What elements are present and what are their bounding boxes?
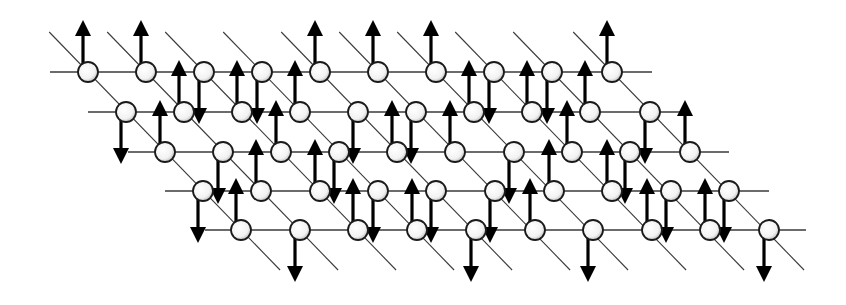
spin-up-arrow-icon [268,100,284,116]
lattice-canvas [0,0,846,305]
lattice-site [485,181,505,201]
lattice-site [271,142,291,162]
lattice-site [368,62,388,82]
lattice-site [445,142,465,162]
spin-up-arrow-icon [248,139,264,155]
spin-up-arrow-icon [133,20,149,36]
lattice-site [759,220,779,240]
lattice-site [194,62,214,82]
spin-up-arrow-icon [577,60,593,76]
lattice-site [213,142,233,162]
lattice-site [348,102,368,122]
lattice-site [368,181,388,201]
spin-up-arrow-icon [287,60,303,76]
spin-up-arrow-icon [697,178,713,194]
lattice-site [116,102,136,122]
spin-up-arrow-icon [365,20,381,36]
spin-up-arrow-icon [519,60,535,76]
lattice-site [136,62,156,82]
lattice-site [232,102,252,122]
lattice-site [525,220,545,240]
lattice-site [155,142,175,162]
lattice-site [174,102,194,122]
spin-down-arrow-icon [190,227,206,243]
spin-up-arrow-icon [404,178,420,194]
lattice-site [426,62,446,82]
spin-down-arrow-icon [580,266,596,282]
lattice-site [504,142,524,162]
spin-up-arrow-icon [171,60,187,76]
lattice-site [522,102,542,122]
spin-up-arrow-icon [423,20,439,36]
spin-up-arrow-icon [677,100,693,116]
lattice-site [602,62,622,82]
spin-up-arrow-icon [307,20,323,36]
lattice-site [620,142,640,162]
lattice-site [387,142,407,162]
lattice-site [680,142,700,162]
spin-up-arrow-icon [461,60,477,76]
lattice-site [661,181,681,201]
lattice-sites [78,62,779,240]
spin-down-arrow-icon [113,148,129,164]
lattice-site [251,181,271,201]
lattice-site [310,181,330,201]
spin-down-arrow-icon [756,266,772,282]
spin-up-arrow-icon [599,139,615,155]
lattice-site [484,62,504,82]
lattice-site [426,181,446,201]
lattice-site [542,62,562,82]
lattice-site [329,142,349,162]
spin-up-arrow-icon [384,100,400,116]
lattice-site [580,102,600,122]
spin-up-arrow-icon [345,178,361,194]
lattice-site [642,220,662,240]
spin-up-arrow-icon [541,139,557,155]
lattice-site [700,220,720,240]
lattice-site [252,62,272,82]
spin-up-arrow-icon [75,20,91,36]
lattice-site [583,220,603,240]
spin-up-arrow-icon [639,178,655,194]
lattice-site [544,181,564,201]
spin-up-arrow-icon [229,60,245,76]
lattice-site [464,102,484,122]
lattice-site [193,181,213,201]
lattice-site [602,181,622,201]
spin-down-arrow-icon [287,266,303,282]
spin-up-arrow-icon [152,100,168,116]
lattice-site [407,220,427,240]
spin-up-arrow-icon [522,178,538,194]
lattice-site [562,142,582,162]
lattice-site [348,220,368,240]
lattice-site [719,181,739,201]
lattice-site [640,102,660,122]
lattice-site [231,220,251,240]
lattice-site [310,62,330,82]
lattice-site [466,220,486,240]
lattice-site [290,102,310,122]
lattice-site [78,62,98,82]
spin-up-arrow-icon [228,178,244,194]
spin-up-arrow-icon [442,100,458,116]
spin-up-arrow-icon [307,139,323,155]
lattice-site [406,102,426,122]
lattice-site [290,220,310,240]
spin-lattice-diagram [0,0,846,305]
spin-down-arrow-icon [463,266,479,282]
spin-up-arrow-icon [559,100,575,116]
spin-up-arrow-icon [599,20,615,36]
